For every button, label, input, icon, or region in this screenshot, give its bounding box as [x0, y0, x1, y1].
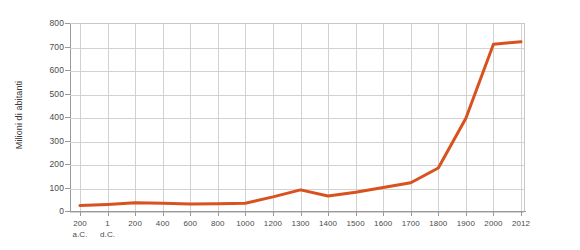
plot-area [70, 23, 525, 211]
gridline-vertical [521, 24, 522, 211]
gridline-vertical [383, 24, 384, 211]
gridline-vertical [163, 24, 164, 211]
y-axis-tick-label: 100 [38, 183, 64, 193]
x-axis-tick-mark [273, 211, 274, 216]
y-axis-tick-label: 700 [38, 42, 64, 52]
gridline-horizontal [70, 95, 524, 96]
x-axis-tick-mark [245, 211, 246, 216]
y-axis-tick-mark [65, 164, 70, 165]
y-axis-tick-label: 300 [38, 136, 64, 146]
y-axis-tick-mark [65, 70, 70, 71]
gridline-vertical [493, 24, 494, 211]
gridline-vertical [108, 24, 109, 211]
gridline-vertical [80, 24, 81, 211]
x-axis-tick-mark [411, 211, 412, 216]
y-axis-tick-mark [65, 117, 70, 118]
gridline-vertical [356, 24, 357, 211]
y-axis-tick-labels: 0100200300400500600700800 [38, 0, 64, 250]
y-axis-tick-mark [65, 211, 70, 212]
gridline-vertical [328, 24, 329, 211]
gridline-horizontal [70, 48, 524, 49]
x-axis-tick-mark [108, 211, 109, 216]
x-axis-tick-label: 2012 [501, 219, 541, 228]
gridline-horizontal [70, 212, 524, 213]
gridline-vertical [273, 24, 274, 211]
y-axis-tick-mark [65, 141, 70, 142]
x-axis-tick-mark [190, 211, 191, 216]
x-axis-tick-mark [80, 211, 81, 216]
gridline-vertical [135, 24, 136, 211]
x-axis-tick-mark [135, 211, 136, 216]
x-axis-tick-mark [521, 211, 522, 216]
x-axis-tick-mark [301, 211, 302, 216]
y-axis-title: Milioni di abitanti [14, 60, 30, 170]
gridline-horizontal [70, 189, 524, 190]
gridline-vertical [301, 24, 302, 211]
y-axis-tick-label: 600 [38, 65, 64, 75]
x-axis-tick-mark [356, 211, 357, 216]
x-axis-tick-mark [218, 211, 219, 216]
y-axis-tick-label: 800 [38, 18, 64, 28]
x-axis-tick-mark [438, 211, 439, 216]
x-axis-tick-mark [383, 211, 384, 216]
y-axis-tick-label: 0 [38, 206, 64, 216]
x-axis-tick-mark [163, 211, 164, 216]
gridline-horizontal [70, 165, 524, 166]
y-axis-tick-label: 500 [38, 89, 64, 99]
x-axis-tick-mark [466, 211, 467, 216]
gridline-vertical [438, 24, 439, 211]
y-axis-tick-mark [65, 94, 70, 95]
y-axis-tick-mark [65, 23, 70, 24]
gridline-horizontal [70, 142, 524, 143]
y-axis-tick-label: 400 [38, 112, 64, 122]
gridline-vertical [411, 24, 412, 211]
gridline-vertical [466, 24, 467, 211]
y-axis-tick-mark [65, 47, 70, 48]
gridline-vertical [245, 24, 246, 211]
x-axis-tick-mark [493, 211, 494, 216]
y-axis-tick-label: 200 [38, 159, 64, 169]
gridline-horizontal [70, 71, 524, 72]
gridline-horizontal [70, 118, 524, 119]
gridline-vertical [190, 24, 191, 211]
population-line-chart: Milioni di abitanti 01002003004005006007… [0, 0, 580, 250]
x-axis-tick-mark [328, 211, 329, 216]
gridline-vertical [218, 24, 219, 211]
x-axis-tick-sublabel: d.C. [88, 230, 128, 239]
y-axis-tick-mark [65, 188, 70, 189]
